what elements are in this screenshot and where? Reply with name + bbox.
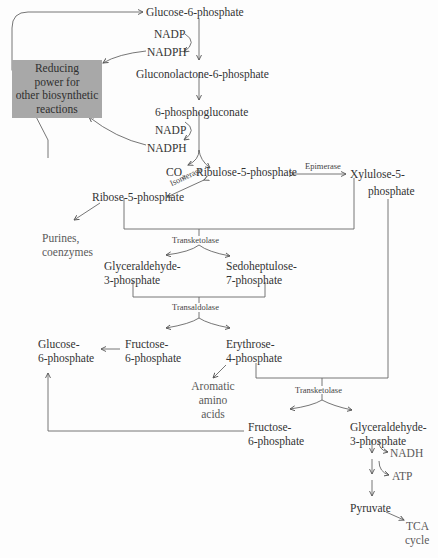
nadp-2: NADP xyxy=(155,123,186,137)
6-phosphogluconate: 6-phosphogluconate xyxy=(155,105,248,119)
fructose-6-phosphate-2-line2: 6-phosphate xyxy=(248,434,304,448)
glyceraldehyde-3-phosphate-1-line2: 3-phosphate xyxy=(104,273,160,287)
aromatic-amino-acids-line2: amino xyxy=(190,393,236,407)
pentose-phosphate-pathway-diagram: Reducing power for other biosynthetic re… xyxy=(0,0,438,558)
glucose-6-phosphate-top: Glucose-6-phosphate xyxy=(146,5,244,19)
tca-cycle-line1: TCA xyxy=(406,519,429,533)
purines-line1: Purines, xyxy=(42,231,79,245)
erythrose-4-phosphate-line2: 4-phosphate xyxy=(226,351,282,365)
fructose-6-phosphate-1-line1: Fructose- xyxy=(125,337,168,351)
enzyme-transketolase-2: Transketolase xyxy=(295,385,342,395)
fructose-6-phosphate-1-line2: 6-phosphate xyxy=(125,351,181,365)
sedoheptulose-7-phosphate-line2: 7-phosphate xyxy=(226,273,282,287)
glyceraldehyde-3-phosphate-2-line1: Glyceraldehyde- xyxy=(350,420,427,434)
fructose-6-phosphate-2-line1: Fructose- xyxy=(248,420,291,434)
enzyme-transaldolase: Transaldolase xyxy=(172,302,219,312)
reducing-power-box: Reducing power for other biosynthetic re… xyxy=(12,60,102,118)
glucose-6-phosphate-left-line1: Glucose- xyxy=(38,337,80,351)
glucose-6-phosphate-left-line2: 6-phosphate xyxy=(38,351,94,365)
xylulose-5-phosphate-line1: Xylulose-5- xyxy=(350,167,405,181)
nadph-2: NADPH xyxy=(147,141,187,155)
nadp-1: NADP xyxy=(154,27,185,41)
ribose-5-phosphate: Ribose-5-phosphate xyxy=(92,190,184,204)
purines-line2: coenzymes xyxy=(42,245,93,259)
enzyme-transketolase-1: Transketolase xyxy=(172,235,219,245)
erythrose-4-phosphate-line1: Erythrose- xyxy=(226,337,275,351)
reducing-power-line: reactions xyxy=(16,103,99,117)
atp: ATP xyxy=(392,469,412,483)
nadh: NADH xyxy=(390,446,423,460)
tca-cycle-line2: cycle xyxy=(405,533,429,547)
ribulose-5-phosphate: Ribulose-5-phosphate xyxy=(196,165,297,179)
reducing-power-line: power for xyxy=(16,76,99,90)
gluconolactone-6-phosphate: Gluconolactone-6-phosphate xyxy=(136,67,269,81)
glyceraldehyde-3-phosphate-1-line1: Glyceraldehyde- xyxy=(104,259,181,273)
aromatic-amino-acids-line1: Aromatic xyxy=(190,379,236,393)
reducing-power-line: other biosynthetic xyxy=(16,89,99,103)
pyruvate: Pyruvate xyxy=(350,501,391,515)
aromatic-amino-acids-line3: acids xyxy=(190,407,236,421)
sedoheptulose-7-phosphate-line1: Sedoheptulose- xyxy=(226,259,297,273)
reducing-power-line: Reducing xyxy=(16,62,99,76)
xylulose-5-phosphate-line2: phosphate xyxy=(368,184,415,198)
enzyme-epimerase: Epimerase xyxy=(305,161,341,171)
nadph-1: NADPH xyxy=(147,45,187,59)
